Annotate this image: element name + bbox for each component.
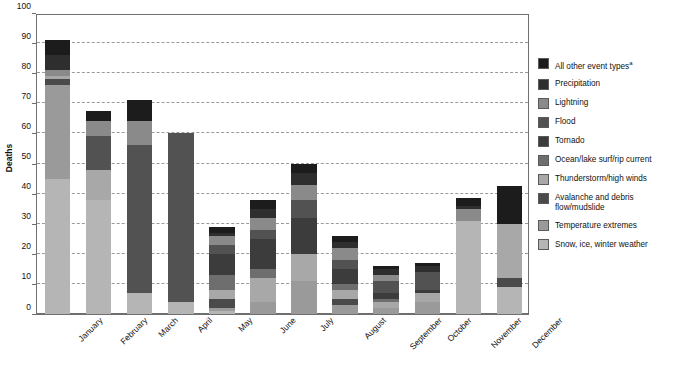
bar-segment (332, 290, 357, 299)
legend-item-label: Lightning (555, 98, 588, 108)
legend-item-label: Temperature extremes (555, 220, 637, 230)
legend-item-label: Precipitation (555, 79, 600, 89)
bar-segment (291, 164, 316, 173)
bar-segment (127, 121, 152, 145)
legend-swatch-icon (538, 136, 549, 147)
bar-segment (168, 133, 193, 302)
bar-segment (209, 290, 234, 299)
y-tick-label-50: 50 (22, 152, 31, 161)
bar-december[interactable] (497, 186, 522, 314)
bar-segment (291, 218, 316, 254)
legend-item[interactable]: Tornado (538, 136, 677, 147)
x-tick-label-may: May (237, 316, 255, 334)
bar-segment (127, 293, 152, 314)
legend-item[interactable]: Avalanche and debrisflow/mudslide (538, 193, 677, 213)
x-tick-label-september: September (408, 316, 444, 352)
x-tick-label-january: January (76, 316, 104, 344)
y-tick-label-40: 40 (22, 182, 31, 191)
x-tick-label-july: July (318, 316, 335, 333)
x-tick-label-august: August (363, 316, 388, 341)
legend-swatch-icon (538, 220, 549, 231)
legend-item-label: Snow, ice, winter weather (555, 239, 648, 249)
bar-segment (250, 239, 275, 269)
x-tick-label-june: June (278, 316, 297, 335)
legend-item[interactable]: Temperature extremes (538, 220, 677, 231)
bar-segment (45, 40, 70, 55)
y-tick-label-100: 100 (17, 2, 31, 11)
bar-segment (209, 275, 234, 290)
bar-segment (250, 302, 275, 314)
bar-group (37, 15, 528, 314)
bar-segment (373, 308, 398, 314)
y-tick-label-80: 80 (22, 62, 31, 71)
bar-november[interactable] (456, 198, 481, 314)
bar-segment (209, 236, 234, 245)
legend: All other event typesaPrecipitationLight… (538, 58, 677, 258)
legend-item[interactable]: Lightning (538, 98, 677, 109)
legend-item-label: Tornado (555, 136, 585, 146)
bar-segment (415, 272, 440, 290)
bar-segment (332, 260, 357, 269)
bar-segment (209, 254, 234, 275)
chart-root: Deaths 0102030405060708090100 JanuaryFeb… (0, 0, 677, 369)
y-tick-label-60: 60 (22, 122, 31, 131)
bar-segment (291, 254, 316, 281)
legend-item[interactable]: Flood (538, 117, 677, 128)
x-tick-label-march: March (157, 316, 180, 339)
x-tick-label-october: October (446, 316, 474, 344)
bar-segment (127, 145, 152, 292)
legend-swatch-icon (538, 155, 549, 166)
bar-segment (250, 200, 275, 209)
bar-march[interactable] (127, 100, 152, 314)
bar-may[interactable] (209, 227, 234, 314)
bar-segment (291, 185, 316, 200)
legend-item[interactable]: All other event typesa (538, 58, 677, 71)
y-tick-label-30: 30 (22, 212, 31, 221)
bar-segment (497, 287, 522, 314)
bar-segment (86, 111, 111, 122)
x-axis-labels: JanuaryFebruaryMarchAprilMayJuneJulyAugu… (36, 316, 529, 369)
legend-item[interactable]: Snow, ice, winter weather (538, 239, 677, 250)
bar-segment (86, 200, 111, 314)
bar-segment (332, 305, 357, 314)
bar-segment (86, 121, 111, 136)
x-tick-label-february: February (119, 316, 149, 346)
y-tick-label-20: 20 (22, 242, 31, 251)
bar-segment (209, 311, 234, 314)
bar-segment (45, 85, 70, 178)
legend-item[interactable]: Thunderstorm/high winds (538, 174, 677, 185)
bar-february[interactable] (86, 111, 111, 314)
bar-october[interactable] (415, 263, 440, 314)
bar-segment (209, 299, 234, 308)
x-tick-label-november: November (490, 316, 524, 350)
legend-footnote-marker: a (629, 60, 632, 66)
x-tick-label-april: April (196, 316, 214, 334)
legend-item[interactable]: Precipitation (538, 79, 677, 90)
bar-segment (332, 248, 357, 260)
bar-segment (45, 179, 70, 314)
bar-september[interactable] (373, 266, 398, 314)
bar-april[interactable] (168, 133, 193, 314)
legend-swatch-icon (538, 193, 549, 204)
legend-swatch-icon (538, 58, 549, 69)
bar-segment (168, 302, 193, 314)
y-tick-label-90: 90 (22, 32, 31, 41)
bar-segment (250, 209, 275, 218)
plot-area (36, 14, 529, 315)
bar-segment (332, 269, 357, 284)
legend-swatch-icon (538, 79, 549, 90)
legend-item[interactable]: Ocean/lake surf/rip current (538, 155, 677, 166)
bar-june[interactable] (250, 200, 275, 314)
legend-item-label: Thunderstorm/high winds (555, 174, 647, 184)
bar-segment (250, 269, 275, 278)
bar-segment (127, 100, 152, 121)
bar-january[interactable] (45, 40, 70, 314)
bar-segment (456, 221, 481, 314)
bar-segment (373, 281, 398, 293)
bar-segment (291, 173, 316, 185)
bar-july[interactable] (291, 164, 316, 314)
bar-august[interactable] (332, 236, 357, 314)
legend-item-label: Ocean/lake surf/rip current (555, 155, 651, 165)
bar-segment (415, 293, 440, 302)
bar-segment (497, 278, 522, 287)
